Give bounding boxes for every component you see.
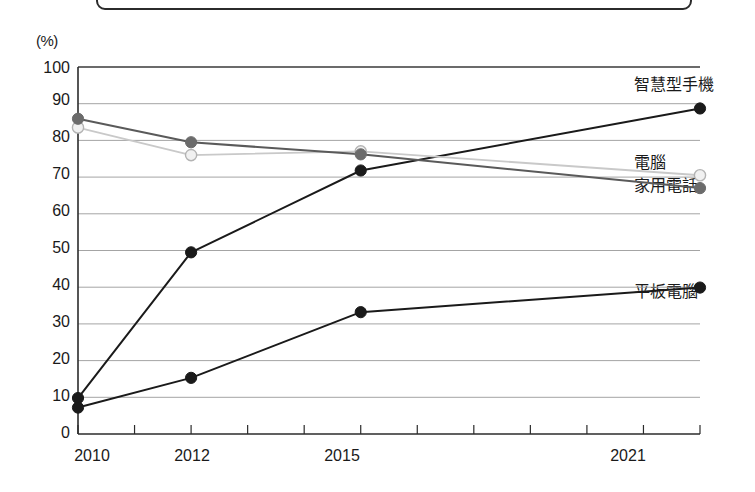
data-point-1-2012[interactable] [185,149,196,160]
x-axis-ticks-group [78,425,700,434]
series-line-3 [78,288,700,408]
data-point-2-2010[interactable] [72,113,83,124]
data-point-2-2021[interactable] [694,183,705,194]
data-point-0-2012[interactable] [185,247,196,258]
data-point-2-2015[interactable] [355,149,366,160]
line-chart: (%) 100 90 80 70 60 50 40 30 20 10 0 201… [0,0,755,492]
data-point-1-2021[interactable] [694,170,705,181]
gridlines-group [78,67,700,397]
data-point-3-2012[interactable] [185,372,196,383]
series-line-0 [78,108,700,398]
data-point-3-2015[interactable] [355,307,366,318]
data-point-0-2015[interactable] [355,165,366,176]
data-point-3-2010[interactable] [72,402,83,413]
data-point-3-2021[interactable] [694,282,705,293]
series-line-1 [78,128,700,176]
data-point-2-2012[interactable] [185,137,196,148]
series-lines-group [78,108,700,407]
chart-plot-svg [0,0,755,492]
data-point-0-2021[interactable] [694,103,705,114]
